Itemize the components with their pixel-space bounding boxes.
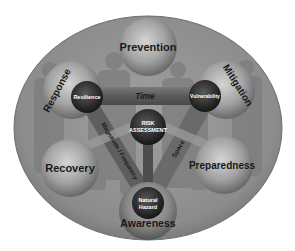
sphere-recovery: Recovery [41,139,99,197]
prevention-label: Prevention [120,41,177,53]
natural-hazard-line2: Hazard [139,204,157,210]
risk-assessment-diagram: Prevention Response Mitigation Recovery … [0,0,295,251]
node-resilience: Resilience [71,81,103,113]
sphere-prevention: Prevention [119,18,177,76]
natural-hazard-line1: Natural [139,197,158,203]
awareness-label: Awareness [120,217,175,229]
vulnerability-label: Vulnerability [190,93,220,99]
risk-assessment-line2: ASSESSMENT [129,127,168,133]
time-label: Time [135,91,155,101]
node-natural-hazard: Natural Hazard [132,187,164,219]
node-vulnerability: Vulnerability [189,80,221,112]
recovery-label: Recovery [45,162,95,174]
resilience-label: Resilience [73,94,100,100]
preparedness-label: Preparedness [189,160,256,171]
risk-assessment-line1: RISK [141,120,154,126]
